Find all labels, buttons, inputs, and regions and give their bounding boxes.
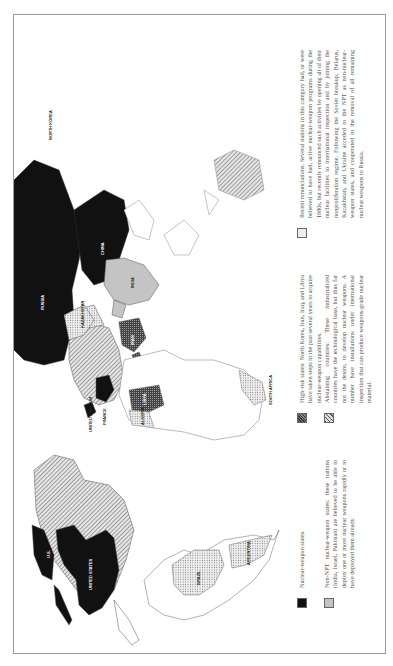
north-america [32,455,139,645]
legend-abstaining-text: Abstaining countries: These industrializ… [323,275,373,403]
map-legend: Nuclear-weapon states. Non-NPT nuclear-w… [290,20,370,650]
south-america [144,530,279,620]
label-united-states: UNITED STATES [88,558,93,590]
legend-nuclear-text: Nuclear-weapon states. [298,468,306,588]
label-china: CHINA [100,242,105,255]
label-kazakhstan: KAZAKHSTAN [80,300,85,328]
label-russia: RUSSIA [40,295,45,310]
swatch-non-npt-states [324,598,334,608]
legend-high-risk-text: High-risk states: North Korea, Iran, Ira… [298,275,323,403]
label-argentina: ARGENTINA [246,541,251,565]
label-brazil: BRAZIL [196,570,201,585]
label-south-africa: SOUTH AFRICA [268,375,273,405]
swatch-nuclear-weapon-states [297,598,307,608]
asia-pacific [124,150,264,255]
label-libya: LIBYA [142,393,147,405]
label-uk: UNITED KINGDOM [88,396,93,432]
label-north-korea: NORTH KOREA [48,110,53,140]
legend-non-npt-text: Non-NPT nuclear-weapon states: these nat… [323,460,357,588]
legend-renunciations-text: Recent renunciations: Several nations in… [298,50,365,218]
swatch-recent-renunciations [297,228,307,238]
world-map: UNITED STATES U.S. UNITED KINGDOM FRANCE… [14,60,284,650]
swatch-high-risk-states [297,413,307,423]
label-us-alaska: U.S. [46,550,51,558]
label-iran: IRAN [130,335,135,345]
label-india: INDIA [130,277,135,288]
label-france: FRANCE [102,408,107,425]
swatch-abstaining-countries [324,413,334,423]
label-algeria: ALGERIA [140,407,145,425]
